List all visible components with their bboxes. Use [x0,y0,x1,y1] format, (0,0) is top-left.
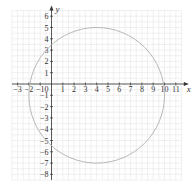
y-tick-label: −6 [40,148,49,157]
y-tick-label: 6 [45,12,49,21]
y-tick-label: −4 [40,125,49,134]
x-tick-label: 4 [95,85,99,94]
x-tick-label: −3 [13,85,22,94]
x-tick-label: 1 [61,85,65,94]
x-tick-label: 9 [151,85,155,94]
y-tick-label: 4 [45,35,49,44]
coordinate-plane: −3−2−11234567891011−8−7−6−5−4−3−2−112345… [0,0,195,196]
x-tick-label: 11 [172,85,180,94]
y-tick-label: −2 [40,103,49,112]
x-tick-label: 2 [72,85,76,94]
x-tick-label: 8 [140,85,144,94]
y-tick-label: 5 [45,24,49,33]
x-tick-label: 6 [117,85,121,94]
y-tick-label: 3 [45,46,49,55]
y-tick-label: 1 [45,69,49,78]
x-axis-label: x [186,84,191,94]
x-tick-label: 5 [106,85,110,94]
y-axis-label: y [55,4,60,14]
y-tick-label: −8 [40,170,49,179]
y-tick-label: −3 [40,114,49,123]
y-axis-arrow-icon [50,5,54,10]
x-tick-label: 3 [83,85,87,94]
y-tick-label: −7 [40,159,49,168]
origin-label: 0 [45,85,49,94]
x-tick-label: 7 [129,85,133,94]
y-tick-label: 2 [45,57,49,66]
